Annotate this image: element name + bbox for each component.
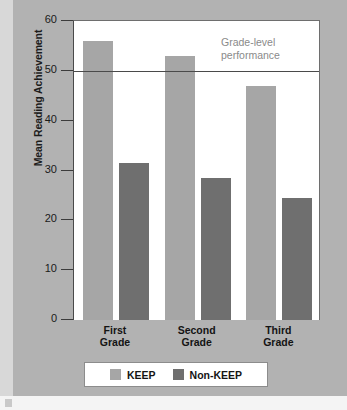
bar-keep-2: [165, 56, 195, 320]
y-axis-tick-label: 40: [9, 114, 57, 125]
bar-keep-3: [246, 86, 276, 320]
y-axis-tick: [61, 70, 73, 71]
legend-swatch-icon: [110, 369, 121, 380]
x-axis-category-label: First Grade: [70, 324, 160, 349]
y-axis-tick: [61, 319, 73, 320]
plot-area: Grade-level performance: [73, 20, 320, 320]
bar-keep-1: [83, 41, 113, 320]
legend-entry-non-keep[interactable]: Non-KEEP: [173, 369, 243, 381]
y-axis-tick-label: 50: [9, 64, 57, 75]
grade-level-annotation-label: Grade-level performance: [221, 36, 317, 62]
y-axis-tick: [61, 170, 73, 171]
y-axis-tick: [61, 219, 73, 220]
legend-swatch-icon: [173, 369, 184, 380]
legend-entry-keep[interactable]: KEEP: [110, 369, 156, 381]
y-axis-tick-label: 30: [9, 164, 57, 175]
y-axis-tick: [61, 120, 73, 121]
x-axis-category-label: Third Grade: [233, 324, 323, 349]
bar-non-keep-3: [282, 198, 312, 320]
y-axis-tick-label: 60: [9, 14, 57, 25]
page-bottom-margin: [0, 396, 347, 410]
y-axis-tick-label: 10: [9, 263, 57, 274]
y-axis-tick: [61, 20, 73, 21]
figure-panel: Mean Reading Achievement Grade-level per…: [0, 0, 347, 396]
y-axis-tick: [61, 269, 73, 270]
x-axis-category-label: Second Grade: [152, 324, 242, 349]
bar-non-keep-1: [119, 163, 149, 320]
y-axis-tick-label: 0: [9, 313, 57, 324]
chart-legend: KEEPNon-KEEP: [84, 362, 268, 387]
bar-non-keep-2: [201, 178, 231, 320]
page-left-margin: [0, 0, 13, 396]
y-axis-tick-label: 20: [9, 213, 57, 224]
scan-artifact-mark: [5, 399, 12, 407]
grade-level-reference-line: [74, 71, 319, 73]
plot-inner: Grade-level performance: [74, 21, 319, 320]
legend-label: KEEP: [127, 369, 156, 381]
legend-label: Non-KEEP: [190, 369, 243, 381]
